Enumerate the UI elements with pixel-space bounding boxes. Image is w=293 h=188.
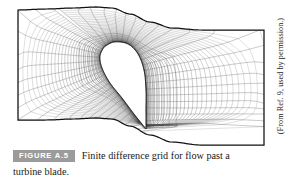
caption-first-line: FIGURE A.5 Finite difference grid for fl…	[13, 149, 263, 163]
caption-text-line-1: Finite difference grid for flow past a	[82, 150, 230, 162]
figure-a5: (From Ref. 9, used by permission.) FIGUR…	[0, 0, 293, 188]
figure-caption: FIGURE A.5 Finite difference grid for fl…	[13, 149, 263, 178]
figure-number-badge: FIGURE A.5	[13, 150, 75, 163]
caption-text-line-2: turbine blade.	[13, 166, 263, 178]
mesh-illustration	[0, 0, 270, 150]
permission-credit: (From Ref. 9, used by permission.)	[267, 0, 293, 152]
permission-credit-text: (From Ref. 9, used by permission.)	[276, 18, 285, 134]
mesh-svg	[0, 0, 270, 150]
